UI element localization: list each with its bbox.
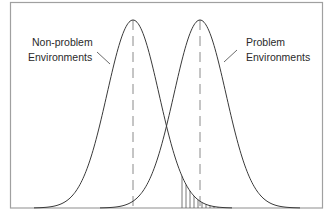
non-problem-leader-line	[97, 52, 110, 64]
problem-curve	[100, 20, 300, 208]
diagram-frame	[11, 3, 323, 209]
non-problem-curve	[34, 20, 232, 208]
distribution-diagram: Non-problem Environments Problem Environ…	[0, 0, 327, 215]
problem-leader-line	[224, 50, 237, 62]
problem-label-line1: Problem	[246, 36, 285, 48]
non-problem-label-line2: Environments	[28, 51, 92, 63]
problem-label-line2: Environments	[246, 51, 310, 63]
non-problem-label-line1: Non-problem	[32, 36, 93, 48]
